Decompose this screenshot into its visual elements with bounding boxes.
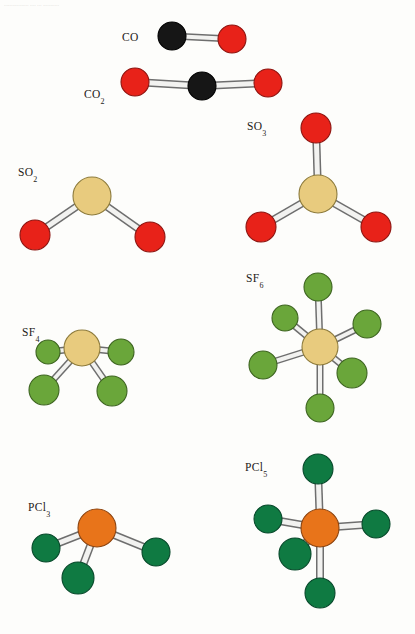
- molecule-label-co: CO: [122, 31, 139, 43]
- atom-chlorine-pcl5-2: [305, 578, 335, 608]
- atom-chlorine-pcl5-4: [362, 510, 390, 538]
- atom-chlorine-pcl5-3: [254, 505, 282, 533]
- molecule-label-pcl3: PCl3: [28, 501, 50, 513]
- molecule-label-so3: SO3: [247, 120, 266, 132]
- molecular-structures-figure: ................. .... ... ........... C…: [0, 0, 415, 634]
- atom-chlorine-pcl5-1: [303, 454, 333, 484]
- atom-chlorine-pcl5-5: [279, 538, 311, 570]
- molecule-canvas-pcl5: [0, 0, 415, 634]
- molecule-label-co2: CO2: [84, 88, 105, 100]
- molecule-label-sf6: SF6: [246, 272, 263, 284]
- molecule-label-pcl5: PCl5: [245, 461, 267, 473]
- atom-group-pcl5: [254, 454, 390, 608]
- molecule-label-so2: SO2: [18, 166, 37, 178]
- molecule-label-sf4: SF4: [22, 326, 39, 338]
- atom-phosphorus-pcl5-0: [301, 509, 339, 547]
